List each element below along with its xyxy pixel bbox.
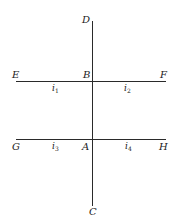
line-gh — [16, 139, 166, 140]
label-i1: i1 — [52, 84, 59, 94]
label-b: B — [83, 70, 90, 80]
line-ef — [16, 81, 166, 82]
line-dc — [92, 21, 93, 206]
circuit-diagram: D E B F G A H C i1 i2 i3 i4 — [0, 0, 179, 223]
label-a: A — [82, 142, 89, 152]
label-i2: i2 — [124, 84, 131, 94]
label-g: G — [12, 142, 20, 152]
label-d: D — [82, 15, 90, 25]
label-i4: i4 — [125, 142, 132, 152]
label-i3: i3 — [52, 142, 59, 152]
label-c: C — [89, 207, 97, 217]
label-f: F — [160, 70, 167, 80]
label-e: E — [12, 70, 19, 80]
label-h: H — [159, 142, 168, 152]
